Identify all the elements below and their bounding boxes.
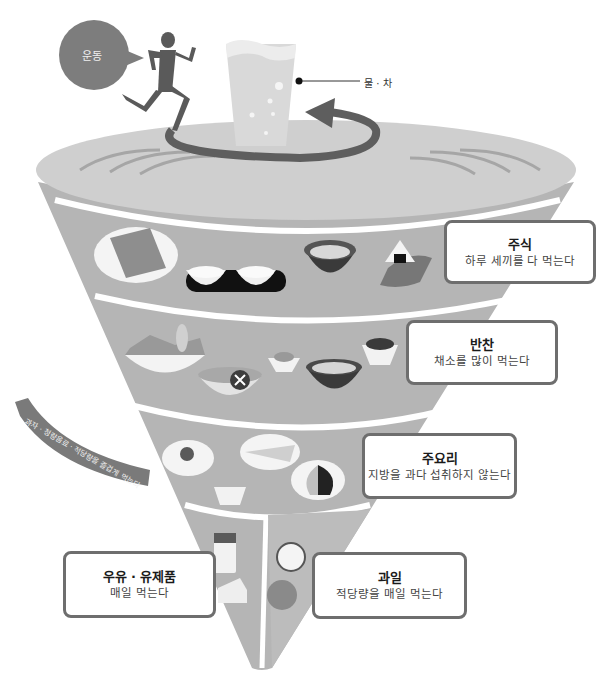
main-dish-label-box: 주요리 지방을 과다 섭취하지 않는다 — [362, 433, 517, 499]
dairy-title: 우유 · 유제품 — [103, 568, 177, 585]
staple-label-box: 주식 하루 세끼를 다 먹는다 — [444, 220, 596, 284]
exercise-label: 운동 — [82, 47, 102, 63]
dairy-label-box: 우유 · 유제품 매일 먹는다 — [63, 551, 216, 618]
runner-icon — [122, 32, 196, 131]
dairy-description: 매일 먹는다 — [110, 585, 169, 601]
staple-description: 하루 세끼를 다 먹는다 — [465, 253, 575, 269]
fruit-title: 과일 — [378, 569, 402, 586]
side-label-box: 반찬 채소를 많이 먹는다 — [406, 320, 558, 385]
water-tea-label: 물 · 차 — [364, 75, 392, 90]
main-dish-title: 주요리 — [422, 450, 458, 467]
food-guide-diagram: 운동 물 · 차 과자 · 청량음료 · 적당량을 즐겁게 먹는다 주식 하루 … — [0, 0, 612, 685]
fruit-description: 적당량을 매일 먹는다 — [336, 586, 442, 602]
main-dish-description: 지방을 과다 섭취하지 않는다 — [368, 467, 511, 483]
side-description: 채소를 많이 먹는다 — [434, 353, 529, 369]
top-disk — [36, 120, 576, 220]
side-title: 반찬 — [470, 336, 494, 353]
fruit-label-box: 과일 적당량을 매일 먹는다 — [312, 552, 467, 619]
staple-title: 주식 — [508, 236, 532, 253]
